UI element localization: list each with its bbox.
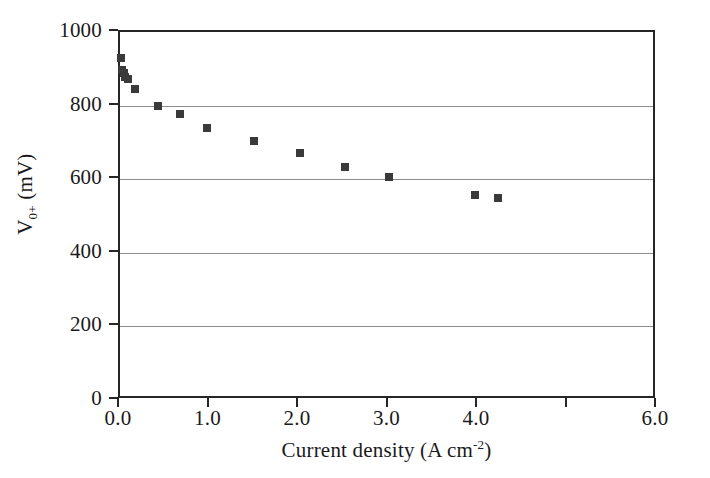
data-point xyxy=(250,137,258,145)
data-point xyxy=(494,194,502,202)
y-tick-label-0: 0 xyxy=(40,388,102,409)
data-point xyxy=(131,85,139,93)
y-axis-title-subscript: 0+ xyxy=(25,205,40,219)
y-tick-label-200: 200 xyxy=(40,314,102,335)
x-tick-label-1: 1.0 xyxy=(173,408,243,429)
y-tick-200 xyxy=(109,323,118,325)
y-tick-label-800: 800 xyxy=(40,93,102,114)
y-axis-title: V0+ (mV) xyxy=(13,104,41,284)
x-tick-label-2: 2.0 xyxy=(262,408,332,429)
data-point xyxy=(203,124,211,132)
x-tick-label-4: 4.0 xyxy=(441,408,511,429)
y-tick-label-1000: 1000 xyxy=(40,20,102,41)
data-point xyxy=(124,75,132,83)
y-tick-1000 xyxy=(109,29,118,31)
y-tick-label-400: 400 xyxy=(40,240,102,261)
y-tick-600 xyxy=(109,176,118,178)
data-point xyxy=(471,191,479,199)
x-tick-5 xyxy=(565,398,567,407)
plot-area xyxy=(118,30,655,398)
data-point xyxy=(296,149,304,157)
data-point xyxy=(176,110,184,118)
data-point xyxy=(154,102,162,110)
figure: 02004006008001000 0.01.02.03.04.06.0 Cur… xyxy=(0,0,710,478)
data-series-points xyxy=(120,32,653,396)
x-axis-title: Current density (A cm-2) xyxy=(118,437,655,463)
y-tick-400 xyxy=(109,250,118,252)
x-axis-title-exponent: -2 xyxy=(473,437,484,452)
y-tick-800 xyxy=(109,103,118,105)
data-point xyxy=(341,163,349,171)
x-tick-label-3: 3.0 xyxy=(352,408,422,429)
x-tick-label-6: 6.0 xyxy=(620,408,690,429)
data-point xyxy=(385,173,393,181)
data-point xyxy=(117,54,125,62)
x-tick-label-0: 0.0 xyxy=(83,408,153,429)
y-tick-label-600: 600 xyxy=(40,167,102,188)
